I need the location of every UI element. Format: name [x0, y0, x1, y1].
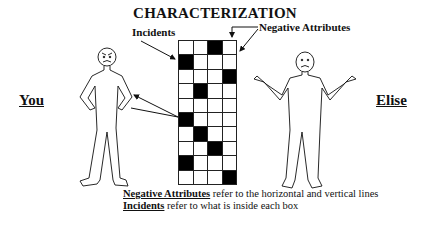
incidents-term: Incidents — [123, 200, 164, 211]
caption-line-1-text: refer to the horizontal and vertical lin… — [210, 188, 378, 199]
you-figure-icon — [80, 48, 132, 186]
incidents-arrow-icon — [141, 41, 175, 59]
elise-figure-icon — [254, 52, 356, 188]
negative-attributes-term: Negative Attributes — [123, 188, 210, 199]
caption-line-1: Negative Attributes refer to the horizon… — [123, 188, 378, 200]
caption-line-2: Incidents refer to what is inside each b… — [123, 200, 298, 212]
grid-to-you-arrow-icon — [131, 95, 178, 117]
negative-attributes-arrow-icon — [232, 27, 258, 51]
caption-line-2-text: refer to what is inside each box — [164, 200, 298, 211]
